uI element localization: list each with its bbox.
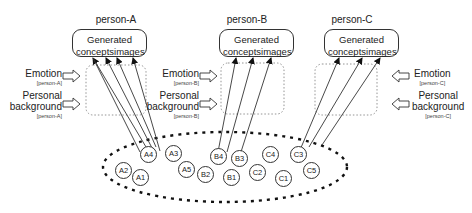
node-c1: C1 bbox=[275, 170, 292, 187]
concepts-label: concepts bbox=[76, 46, 114, 57]
emotion-label-person-b: Emotion [person-B] bbox=[162, 68, 199, 87]
process-box-person-c bbox=[315, 64, 377, 115]
hollow-arrow-emotion-a bbox=[63, 70, 80, 82]
node-c3: C3 bbox=[290, 146, 307, 163]
generated-label: Generated bbox=[325, 34, 398, 45]
concepts-label: concepts bbox=[328, 46, 366, 57]
hollow-arrow-background-a bbox=[63, 98, 80, 110]
background-label-person-c: Personal background [person-C] bbox=[412, 90, 464, 120]
generated-box-person-b: Generated concepts images bbox=[219, 29, 294, 57]
generated-label: Generated bbox=[73, 34, 146, 45]
node-a2: A2 bbox=[115, 162, 132, 179]
images-label: images bbox=[261, 46, 292, 57]
node-c5: C5 bbox=[303, 162, 320, 179]
influence-arrows-person-b bbox=[218, 58, 271, 155]
node-b2: B2 bbox=[197, 166, 214, 183]
influence-arrows-person-c bbox=[300, 58, 380, 150]
hollow-arrow-emotion-c bbox=[392, 70, 409, 82]
diagram-canvas: person-A person-B person-C Generated con… bbox=[0, 0, 472, 213]
node-b3: B3 bbox=[231, 150, 248, 167]
concepts-label: concepts bbox=[223, 46, 261, 57]
images-label: images bbox=[366, 46, 397, 57]
background-label-person-b: Personal background [person-B] bbox=[147, 90, 199, 120]
node-a4: A4 bbox=[140, 146, 157, 163]
person-b-title: person-B bbox=[207, 15, 287, 25]
node-c2: C2 bbox=[249, 164, 266, 181]
generated-box-person-a: Generated concepts images bbox=[72, 29, 147, 57]
node-b1: B1 bbox=[223, 169, 240, 186]
hollow-arrow-background-b bbox=[200, 98, 217, 110]
person-a-title: person-A bbox=[76, 15, 156, 25]
person-c-title: person-C bbox=[312, 15, 392, 25]
background-label-person-a: Personal background [person-A] bbox=[10, 90, 62, 120]
node-c4: C4 bbox=[262, 146, 279, 163]
hollow-arrow-background-c bbox=[392, 98, 409, 110]
node-a5: A5 bbox=[178, 161, 195, 178]
node-a1: A1 bbox=[132, 169, 149, 186]
images-label: images bbox=[114, 46, 145, 57]
emotion-label-person-a: Emotion [person-A] bbox=[25, 68, 62, 87]
node-b4: B4 bbox=[210, 148, 227, 165]
generated-box-person-c: Generated concepts images bbox=[324, 29, 399, 57]
node-a3: A3 bbox=[165, 145, 182, 162]
emotion-label-person-c: Emotion [person-C] bbox=[414, 68, 451, 87]
generated-label: Generated bbox=[220, 34, 293, 45]
hollow-arrow-emotion-b bbox=[200, 70, 217, 82]
